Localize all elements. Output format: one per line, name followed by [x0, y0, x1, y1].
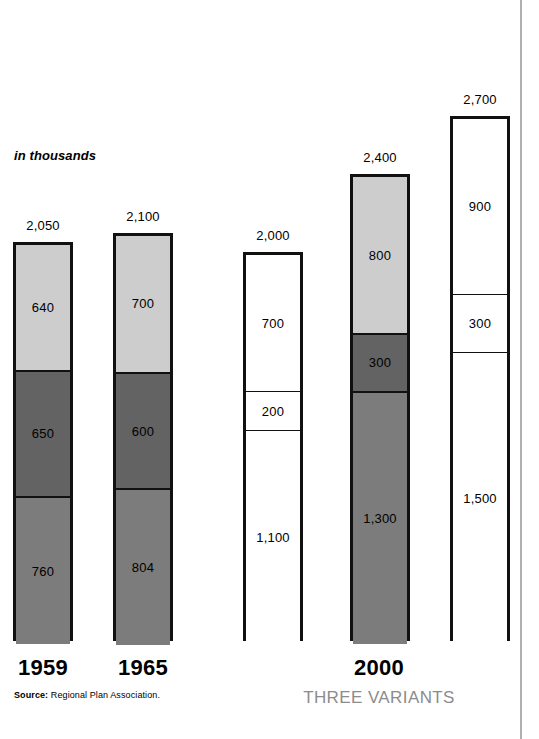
unit-note: in thousands: [14, 148, 96, 163]
bar-segment[interactable]: 700: [246, 255, 300, 391]
bar-segment[interactable]: 760: [16, 496, 70, 644]
category-label: 1959: [18, 655, 68, 681]
bar-group: 2,100700600804: [113, 233, 173, 641]
bar-total-label: 2,700: [463, 92, 497, 107]
bar-segment-label: 900: [469, 199, 491, 214]
bar-segment[interactable]: 600: [116, 372, 170, 489]
bar-segment-label: 700: [262, 316, 284, 331]
bar-segment-label: 1,100: [256, 530, 290, 545]
bar-group: 2,7009003001,500: [450, 116, 510, 641]
bar-stack[interactable]: 7002001,100: [243, 252, 303, 641]
bar-segment[interactable]: 1,100: [246, 430, 300, 644]
bar-total-label: 2,400: [363, 150, 397, 165]
source-text: Regional Plan Association.: [51, 690, 160, 700]
bar-segment[interactable]: 900: [453, 119, 507, 294]
category-label: 2000: [354, 655, 404, 681]
bar-group: 2,0007002001,100: [243, 252, 303, 641]
bar-segment[interactable]: 800: [353, 177, 407, 333]
bar-segment-label: 640: [32, 300, 54, 315]
bar-segment[interactable]: 1,500: [453, 352, 507, 644]
bar-group: 2,4008003001,300: [350, 174, 410, 641]
bar-total-label: 2,000: [256, 228, 290, 243]
bar-segment[interactable]: 1,300: [353, 391, 407, 644]
bar-segment-label: 804: [132, 560, 154, 575]
group-sublabel: THREE VARIANTS: [303, 688, 455, 708]
bar-stack[interactable]: 9003001,500: [450, 116, 510, 641]
bar-segment[interactable]: 804: [116, 488, 170, 644]
source-label: Source:: [14, 690, 48, 700]
bar-stack[interactable]: 700600804: [113, 233, 173, 641]
bar-segment-label: 1,500: [463, 491, 497, 506]
bar-segment[interactable]: 300: [353, 333, 407, 391]
bar-stack[interactable]: 8003001,300: [350, 174, 410, 641]
bar-segment[interactable]: 650: [16, 370, 70, 496]
bar-total-label: 2,100: [126, 209, 160, 224]
bar-group: 2,050640650760: [13, 242, 73, 641]
category-label: 1965: [118, 655, 168, 681]
bar-stack[interactable]: 640650760: [13, 242, 73, 641]
bar-segment-label: 600: [132, 424, 154, 439]
page-divider-rule: [520, 0, 522, 739]
bar-segment-label: 760: [32, 564, 54, 579]
source-note: Source: Regional Plan Association.: [14, 690, 160, 700]
bar-segment-label: 1,300: [363, 511, 397, 526]
bar-segment-label: 300: [469, 316, 491, 331]
bar-segment-label: 300: [369, 355, 391, 370]
bar-segment[interactable]: 700: [116, 236, 170, 372]
bar-segment[interactable]: 200: [246, 391, 300, 430]
bar-segment-label: 800: [369, 248, 391, 263]
bar-segment[interactable]: 640: [16, 245, 70, 369]
bar-segment[interactable]: 300: [453, 294, 507, 352]
bar-total-label: 2,050: [26, 218, 60, 233]
bar-segment-label: 650: [32, 426, 54, 441]
bar-segment-label: 700: [132, 296, 154, 311]
stacked-bar-chart: in thousands 2,0506406507602,10070060080…: [0, 0, 539, 739]
bar-segment-label: 200: [262, 404, 284, 419]
